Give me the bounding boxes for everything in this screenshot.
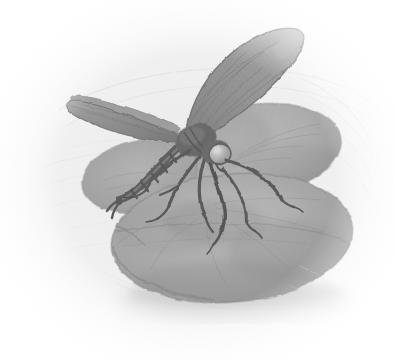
illustration-canvas: Dragonfly Resting on Lily Pads xyxy=(0,0,394,360)
vignette xyxy=(0,0,394,360)
dragonfly-lilypad-drawing xyxy=(0,0,394,360)
